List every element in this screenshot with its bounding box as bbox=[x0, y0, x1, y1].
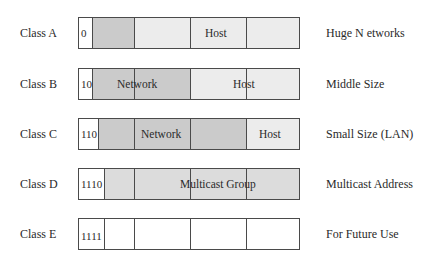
class-a-description: Huge N etworks bbox=[326, 26, 405, 40]
class-e-prefix: 1111 bbox=[81, 223, 102, 249]
class-b-description: Middle Size bbox=[326, 77, 384, 91]
class-c-label: Class C bbox=[20, 127, 57, 141]
class-d-description: Multicast Address bbox=[326, 177, 413, 191]
class-a-label: Class A bbox=[20, 26, 57, 40]
class-d-bar: 1110 Multicast Group bbox=[78, 168, 300, 200]
class-c-bar: 110 Network Host bbox=[78, 118, 300, 150]
class-c-network-label: Network bbox=[141, 119, 181, 149]
class-d-prefix: 1110 bbox=[81, 169, 102, 199]
class-b-label: Class B bbox=[20, 77, 57, 91]
class-a-host-label: Host bbox=[205, 18, 227, 48]
class-e-label: Class E bbox=[20, 227, 56, 241]
class-d-label: Class D bbox=[20, 177, 58, 191]
class-b-network-label: Network bbox=[117, 69, 157, 99]
class-e-bar: 1111 bbox=[78, 218, 300, 250]
class-a-bar: 0 Host bbox=[78, 17, 300, 49]
class-c-description: Small Size (LAN) bbox=[326, 127, 413, 141]
class-b-prefix: 10 bbox=[81, 69, 92, 99]
class-c-host-label: Host bbox=[259, 119, 281, 149]
class-d-multicast-label: Multicast Group bbox=[180, 169, 256, 199]
class-c-prefix: 110 bbox=[81, 119, 97, 149]
class-e-description: For Future Use bbox=[326, 227, 399, 241]
class-b-host-label: Host bbox=[233, 69, 255, 99]
class-b-bar: 10 Network Host bbox=[78, 68, 300, 100]
class-a-prefix: 0 bbox=[81, 18, 87, 48]
